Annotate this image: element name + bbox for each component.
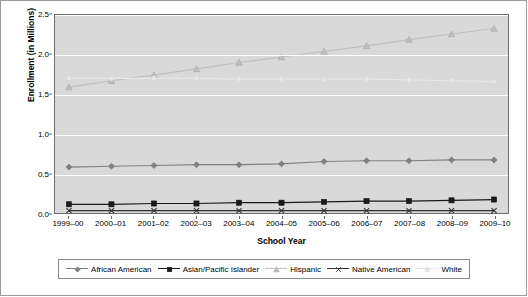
data-point-marker bbox=[274, 266, 280, 271]
x-tick-label: 2001–02 bbox=[138, 219, 169, 228]
data-point-marker bbox=[449, 157, 455, 163]
y-tick-label: 2.5 bbox=[38, 10, 49, 19]
legend-swatch bbox=[265, 264, 287, 274]
x-tick-mark bbox=[239, 216, 240, 219]
x-tick-label: 2003–04 bbox=[223, 219, 254, 228]
y-gridline bbox=[55, 175, 508, 176]
data-point-marker bbox=[449, 198, 454, 203]
legend-swatch bbox=[66, 264, 88, 274]
x-tick-mark bbox=[324, 216, 325, 219]
legend-swatch bbox=[416, 264, 438, 274]
data-point-marker bbox=[66, 76, 71, 81]
y-axis-labels: 0.00.51.01.52.02.5 bbox=[18, 14, 52, 214]
legend-swatch bbox=[327, 264, 349, 274]
x-tick-label: 1999–00 bbox=[52, 219, 83, 228]
series-group bbox=[66, 157, 497, 170]
y-tick-mark bbox=[49, 54, 52, 55]
legend-item[interactable]: African American bbox=[66, 264, 151, 274]
data-point-marker bbox=[236, 162, 242, 168]
legend-swatch bbox=[158, 264, 180, 274]
data-point-marker bbox=[406, 158, 412, 164]
y-gridline bbox=[55, 55, 508, 56]
chart-figure: Enrollment (in Millions) 0.00.51.01.52.0… bbox=[0, 0, 528, 297]
data-point-marker bbox=[109, 76, 114, 81]
data-point-marker bbox=[364, 77, 369, 82]
legend-marker-square-icon bbox=[166, 266, 173, 273]
x-tick-mark bbox=[367, 216, 368, 219]
y-tick-label: 0.0 bbox=[38, 210, 49, 219]
data-point-marker bbox=[75, 266, 80, 271]
series-group bbox=[66, 197, 496, 207]
data-point-marker bbox=[108, 163, 114, 169]
data-point-marker bbox=[193, 162, 199, 168]
x-tick-mark bbox=[410, 216, 411, 219]
data-point-marker bbox=[491, 157, 497, 163]
data-point-marker bbox=[236, 200, 241, 205]
data-point-marker bbox=[279, 161, 285, 167]
series-group bbox=[66, 76, 496, 84]
x-tick-label: 2002–03 bbox=[181, 219, 212, 228]
x-tick-label: 2000–01 bbox=[95, 219, 126, 228]
y-gridline bbox=[55, 15, 508, 16]
x-tick-label: 2007–08 bbox=[394, 219, 425, 228]
legend-item[interactable]: White bbox=[416, 264, 461, 274]
data-point-marker bbox=[66, 202, 71, 207]
legend-label: White bbox=[441, 265, 461, 274]
x-tick-label: 2008–09 bbox=[437, 219, 468, 228]
data-point-marker bbox=[321, 199, 326, 204]
x-tick-label: 2004–05 bbox=[266, 219, 297, 228]
legend-label: African American bbox=[91, 265, 151, 274]
plot-area bbox=[54, 14, 509, 214]
data-point-marker bbox=[151, 201, 156, 206]
data-point-marker bbox=[66, 164, 72, 170]
x-tick-label: 2009–10 bbox=[479, 219, 510, 228]
data-point-marker bbox=[194, 76, 199, 81]
x-axis-title: School Year bbox=[54, 236, 509, 246]
legend-label: Asian/Pacific Islander bbox=[183, 265, 259, 274]
legend-item[interactable]: Asian/Pacific Islander bbox=[158, 264, 259, 274]
x-tick-mark bbox=[68, 216, 69, 219]
data-point-marker bbox=[364, 158, 370, 164]
series-lines bbox=[55, 15, 508, 213]
legend-marker-diamond-icon bbox=[74, 266, 81, 273]
legend-marker-triangle-icon bbox=[273, 266, 280, 273]
legend-item[interactable]: Hispanic bbox=[265, 264, 321, 274]
data-point-marker bbox=[279, 77, 284, 82]
x-tick-mark bbox=[495, 216, 496, 219]
x-tick-mark bbox=[282, 216, 283, 219]
data-point-marker bbox=[491, 79, 496, 84]
data-point-marker bbox=[167, 267, 172, 272]
x-axis-labels: 1999–002000–012001–022002–032003–042004–… bbox=[54, 216, 509, 236]
y-tick-label: 0.5 bbox=[38, 170, 49, 179]
data-point-marker bbox=[321, 77, 326, 82]
y-tick-mark bbox=[49, 174, 52, 175]
x-tick-mark bbox=[196, 216, 197, 219]
data-point-marker bbox=[321, 159, 327, 165]
y-tick-mark bbox=[49, 14, 52, 15]
legend-item[interactable]: Native American bbox=[327, 264, 410, 274]
data-point-marker bbox=[449, 78, 454, 83]
series-group bbox=[66, 208, 496, 213]
data-point-marker bbox=[279, 200, 284, 205]
x-tick-label: 2006–07 bbox=[351, 219, 382, 228]
x-tick-mark bbox=[452, 216, 453, 219]
y-tick-mark bbox=[49, 214, 52, 215]
data-point-marker bbox=[236, 77, 241, 82]
y-tick-mark bbox=[49, 94, 52, 95]
y-tick-label: 1.5 bbox=[38, 90, 49, 99]
chart-legend: African AmericanAsian/Pacific IslanderHi… bbox=[58, 259, 470, 279]
legend-marker-x-icon bbox=[335, 266, 342, 273]
data-point-marker bbox=[109, 202, 114, 207]
y-gridline bbox=[55, 95, 508, 96]
y-tick-mark bbox=[49, 134, 52, 135]
x-tick-mark bbox=[153, 216, 154, 219]
y-tick-label: 1.0 bbox=[38, 130, 49, 139]
legend-label: Hispanic bbox=[290, 265, 321, 274]
y-tick-label: 2.0 bbox=[38, 50, 49, 59]
data-point-marker bbox=[151, 76, 156, 81]
x-tick-mark bbox=[111, 216, 112, 219]
legend-label: Native American bbox=[352, 265, 410, 274]
data-point-marker bbox=[406, 199, 411, 204]
data-point-marker bbox=[151, 163, 157, 169]
legend-marker-circle-icon bbox=[424, 266, 431, 273]
